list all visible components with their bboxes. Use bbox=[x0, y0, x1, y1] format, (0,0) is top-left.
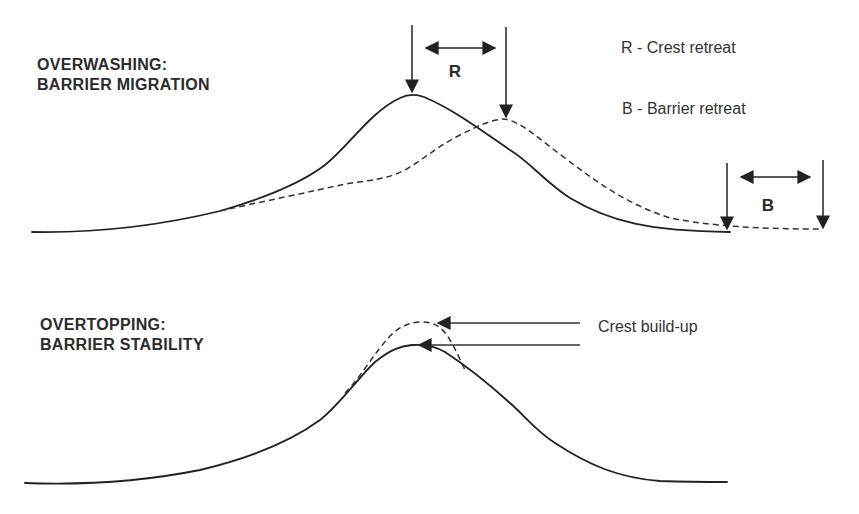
barrier-diagram: OVERWASHING: BARRIER MIGRATION R B R - C… bbox=[0, 0, 859, 514]
overwashing-panel: OVERWASHING: BARRIER MIGRATION R B R - C… bbox=[32, 25, 823, 232]
overtopping-title-line1: OVERTOPPING: bbox=[40, 316, 166, 333]
overwashing-title-line1: OVERWASHING: bbox=[37, 56, 167, 73]
overwashing-title-line2: BARRIER MIGRATION bbox=[37, 76, 210, 93]
legend-barrier-retreat: B - Barrier retreat bbox=[622, 100, 746, 117]
overtopping-panel: OVERTOPPING: BARRIER STABILITY Crest bui… bbox=[25, 316, 727, 484]
overtopping-title-line2: BARRIER STABILITY bbox=[40, 336, 204, 353]
stable-profile-solid bbox=[25, 345, 727, 484]
crest-retreat-marker-r: R bbox=[449, 62, 461, 81]
legend-crest-retreat: R - Crest retreat bbox=[621, 39, 736, 56]
crest-buildup-label: Crest build-up bbox=[598, 318, 698, 335]
crest-buildup-profile-dashed bbox=[345, 322, 466, 393]
barrier-retreat-marker-b: B bbox=[762, 196, 774, 215]
